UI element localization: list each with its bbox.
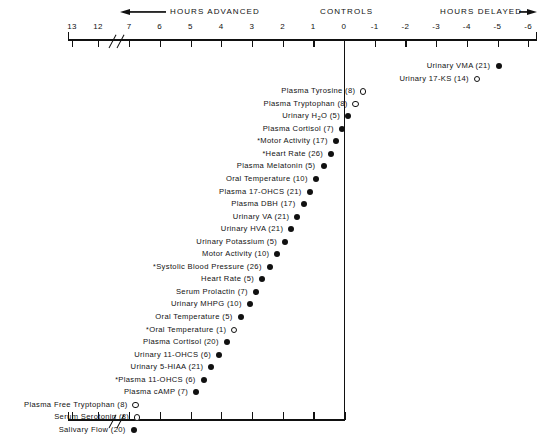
axis-tick-label-7: 7	[127, 22, 132, 31]
open-circle-marker-icon	[231, 327, 238, 334]
data-point-row[interactable]: *Plasma 11-OHCS (6)	[0, 374, 207, 386]
data-point-row[interactable]: Plasma DBH (17)	[0, 198, 307, 210]
axis-endcap-bot-3	[345, 412, 346, 420]
data-point-row[interactable]: Urinary H2O (5)	[0, 110, 351, 122]
data-point-label: Plasma Melatonin (5)	[237, 160, 316, 172]
data-point-label: *Motor Activity (17)	[257, 135, 328, 147]
data-point-label: Oral Temperature (5)	[155, 311, 232, 323]
data-point-row[interactable]: Plasma Cortisol (7)	[0, 123, 345, 135]
axis-tick-3-bot	[252, 412, 253, 419]
axis-tick-label-2: 2	[280, 22, 285, 31]
filled-circle-marker-icon	[339, 126, 345, 132]
data-point-row[interactable]: *Oral Temperature (1)	[0, 324, 237, 336]
data-point-row[interactable]: Motor Activity (10)	[0, 248, 280, 260]
filled-circle-marker-icon	[301, 201, 307, 207]
axis-tick-label-5: 5	[188, 22, 193, 31]
data-point-row[interactable]: Plasma Tyrosine (8)	[0, 85, 366, 97]
data-point-label: Plasma 17-OHCS (21)	[219, 186, 302, 198]
axis-tick-1-top	[313, 40, 314, 47]
data-point-row[interactable]: Salivary Flow (20)	[0, 424, 137, 436]
axis-tick-13-top	[72, 40, 73, 47]
data-point-label: Plasma Tryptophan (8)	[264, 98, 348, 110]
data-point-label: Plasma Tyrosine (8)	[281, 85, 355, 97]
arrow-left-icon	[120, 9, 166, 14]
hours-delayed-label: HOURS DELAYED	[440, 7, 522, 16]
axis-tick-6-bot	[160, 412, 161, 419]
filled-circle-marker-icon	[345, 113, 351, 119]
axis-tick-label-0: 0	[342, 22, 347, 31]
data-point-row[interactable]: Urinary 11-OHCS (6)	[0, 349, 222, 361]
data-point-row[interactable]: Plasma 17-OHCS (21)	[0, 186, 313, 198]
data-point-row[interactable]: Urinary Potassium (5)	[0, 236, 288, 248]
axis-tick-label--5: -5	[494, 22, 502, 31]
data-point-row[interactable]: Plasma Melatonin (5)	[0, 160, 327, 172]
axis-tick-2-top	[283, 40, 284, 47]
axis-tick-1-bot	[313, 412, 314, 419]
data-point-row[interactable]: Plasma Tryptophan (8)	[0, 98, 359, 110]
axis-tick-6-top	[160, 40, 161, 47]
arrow-right-icon	[519, 9, 537, 14]
data-point-row[interactable]: Plasma cAMP (7)	[0, 386, 199, 398]
axis-tick-2-bot	[283, 412, 284, 419]
data-point-label: Heart Rate (5)	[201, 273, 254, 285]
filled-circle-marker-icon	[216, 352, 222, 358]
data-point-row[interactable]: Serum Prolactin (7)	[0, 286, 259, 298]
controls-label: CONTROLS	[320, 7, 373, 16]
data-point-label: Urinary 5-HIAA (21)	[131, 361, 204, 373]
axis-tick-5-top	[191, 40, 192, 47]
data-point-row[interactable]: Urinary 5-HIAA (21)	[0, 361, 214, 373]
filled-circle-marker-icon	[247, 301, 253, 307]
data-point-row[interactable]: Urinary MHPG (10)	[0, 298, 253, 310]
data-point-row[interactable]: Urinary HVA (21)	[0, 223, 294, 235]
open-circle-marker-icon	[132, 402, 139, 409]
axis-tick-label-3: 3	[249, 22, 254, 31]
filled-circle-marker-icon	[288, 226, 294, 232]
filled-circle-marker-icon	[208, 364, 214, 370]
data-point-row[interactable]: Serum Serotonin (8)	[0, 411, 140, 423]
axis-tick--4-top	[467, 40, 468, 47]
filled-circle-marker-icon	[253, 289, 259, 295]
axis-tick--3-top	[436, 40, 437, 47]
data-point-row[interactable]: Urinary VA (21)	[0, 211, 300, 223]
axis-tick-label--4: -4	[463, 22, 471, 31]
axis-tick-4-bot	[221, 412, 222, 419]
data-point-label: Oral Temperature (10)	[226, 173, 308, 185]
open-circle-marker-icon	[134, 414, 141, 421]
axis-break-slash-1	[117, 35, 125, 49]
axis-tick-label--1: -1	[371, 22, 379, 31]
filled-circle-marker-icon	[201, 377, 207, 383]
filled-circle-marker-icon	[328, 151, 334, 157]
axis-tick-label-1: 1	[311, 22, 316, 31]
data-point-row[interactable]: Urinary 17-KS (14)	[0, 73, 480, 85]
data-point-row[interactable]: *Systolic Blood Pressure (26)	[0, 261, 273, 273]
data-point-row[interactable]: Plasma Free Tryptophan (8)	[0, 399, 139, 411]
axis-tick-3-top	[252, 40, 253, 47]
axis-tick-0-top	[344, 40, 345, 47]
filled-circle-marker-icon	[224, 339, 230, 345]
data-point-label: Plasma cAMP (7)	[124, 386, 188, 398]
data-point-label: Plasma Cortisol (20)	[143, 336, 219, 348]
data-point-row[interactable]: *Motor Activity (17)	[0, 135, 339, 147]
data-point-label: *Oral Temperature (1)	[146, 324, 226, 336]
data-point-label: Urinary VMA (21)	[427, 60, 491, 72]
data-point-label: *Systolic Blood Pressure (26)	[153, 261, 262, 273]
filled-circle-marker-icon	[267, 264, 273, 270]
data-point-label: Urinary MHPG (10)	[171, 298, 242, 310]
axis-tick-label-6: 6	[157, 22, 162, 31]
filled-circle-marker-icon	[259, 276, 265, 282]
filled-circle-marker-icon	[496, 63, 502, 69]
data-point-row[interactable]: Oral Temperature (5)	[0, 311, 244, 323]
filled-circle-marker-icon	[321, 163, 327, 169]
data-point-row[interactable]: Plasma Cortisol (20)	[0, 336, 230, 348]
data-point-row[interactable]: Urinary VMA (21)	[0, 60, 502, 72]
data-point-row[interactable]: Oral Temperature (10)	[0, 173, 319, 185]
filled-circle-marker-icon	[294, 214, 300, 220]
data-point-row[interactable]: Heart Rate (5)	[0, 273, 265, 285]
axis-tick-label-4: 4	[219, 22, 224, 31]
data-point-label: Urinary HVA (21)	[221, 223, 283, 235]
data-point-label: Plasma Cortisol (7)	[263, 123, 334, 135]
axis-tick--5-top	[498, 40, 499, 47]
data-point-row[interactable]: *Heart Rate (26)	[0, 148, 334, 160]
filled-circle-marker-icon	[131, 427, 137, 433]
axis-tick-label--6: -6	[524, 22, 532, 31]
